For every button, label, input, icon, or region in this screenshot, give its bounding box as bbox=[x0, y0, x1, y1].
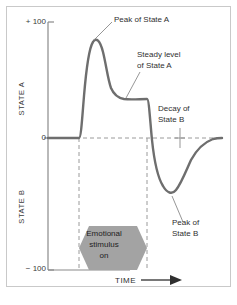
response-curve bbox=[48, 40, 222, 193]
annotation-peak-of-state-b: Peak of State B bbox=[172, 218, 199, 239]
annotation-decay-line2: State B bbox=[158, 115, 190, 126]
stimulus-hexagon-label: Emotional stimulus on bbox=[74, 228, 134, 261]
annotation-peak-of-state-a: Peak of State A bbox=[114, 15, 169, 26]
annotation-decay-of-state-b: Decay of State B bbox=[158, 104, 190, 125]
y-axis-label-top: + 100 bbox=[8, 17, 46, 26]
leader-line-steady-a bbox=[126, 72, 140, 98]
annotation-steady-level-line1: Steady level bbox=[137, 50, 181, 61]
axis-title-state-a: STATE A bbox=[17, 69, 26, 129]
annotation-steady-level-of-state-a: Steady level of State A bbox=[137, 50, 181, 71]
y-axis-label-zero: 0 bbox=[8, 133, 46, 142]
stimulus-label-line1: Emotional bbox=[74, 228, 134, 239]
axis-title-state-b: STATE B bbox=[17, 177, 26, 237]
x-axis-title-time: TIME bbox=[115, 276, 136, 285]
annotation-peak-b-line1: Peak of bbox=[172, 218, 199, 229]
annotation-peak-b-line2: State B bbox=[172, 229, 199, 240]
stimulus-label-line2: stimulus bbox=[74, 239, 134, 250]
time-arrow-head bbox=[170, 275, 182, 285]
leader-line-peak-a bbox=[94, 22, 112, 40]
y-axis-label-bottom: − 100 bbox=[8, 264, 46, 273]
stimulus-label-line3: on bbox=[74, 250, 134, 261]
annotation-steady-level-line2: of State A bbox=[137, 61, 181, 72]
annotation-decay-line1: Decay of bbox=[158, 104, 190, 115]
figure-container: + 100 0 − 100 STATE A STATE B Peak of St… bbox=[0, 0, 237, 305]
